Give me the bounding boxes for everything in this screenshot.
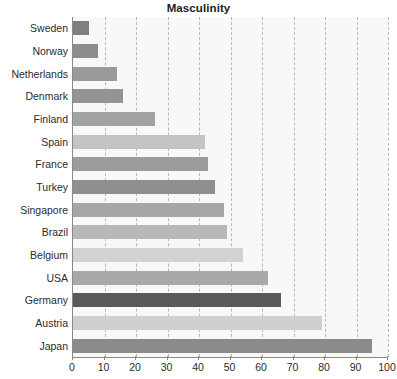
- bar-row: [73, 135, 388, 149]
- bar-netherlands[interactable]: [73, 67, 117, 81]
- bar-row: [73, 293, 388, 307]
- x-axis-tick-mark-90: [356, 356, 357, 360]
- bar-row: [73, 316, 388, 330]
- gridline-100: [388, 17, 389, 357]
- bar-row: [73, 112, 388, 126]
- x-axis-tick-mark-80: [324, 356, 325, 360]
- x-axis-tick-60: 60: [255, 360, 267, 374]
- y-axis-label-japan: Japan: [0, 340, 68, 352]
- bar-row: [73, 203, 388, 217]
- x-axis-tick-mark-70: [293, 356, 294, 360]
- bar-row: [73, 248, 388, 262]
- x-axis-tick-mark-0: [72, 356, 73, 360]
- bar-france[interactable]: [73, 157, 208, 171]
- y-axis-label-netherlands: Netherlands: [0, 68, 68, 80]
- x-axis-tick-mark-40: [198, 356, 199, 360]
- bar-row: [73, 21, 388, 35]
- bar-turkey[interactable]: [73, 180, 215, 194]
- bar-finland[interactable]: [73, 112, 155, 126]
- y-axis-label-austria: Austria: [0, 317, 68, 329]
- bar-row: [73, 339, 388, 353]
- bar-japan[interactable]: [73, 339, 372, 353]
- bar-row: [73, 44, 388, 58]
- bar-norway[interactable]: [73, 44, 98, 58]
- y-axis-label-germany: Germany: [0, 294, 68, 306]
- bar-denmark[interactable]: [73, 89, 123, 103]
- bar-row: [73, 157, 388, 171]
- bar-austria[interactable]: [73, 316, 322, 330]
- bar-spain[interactable]: [73, 135, 205, 149]
- bar-germany[interactable]: [73, 293, 281, 307]
- y-axis-label-denmark: Denmark: [0, 90, 68, 102]
- y-axis-label-brazil: Brazil: [0, 226, 68, 238]
- y-axis-label-usa: USA: [0, 272, 68, 284]
- masculinity-bar-chart: Masculinity SwedenNorwayNetherlandsDenma…: [0, 0, 397, 379]
- x-axis-tick-40: 40: [192, 360, 204, 374]
- x-axis-tick-mark-20: [135, 356, 136, 360]
- y-axis-label-france: France: [0, 158, 68, 170]
- x-axis-tick-70: 70: [287, 360, 299, 374]
- bar-row: [73, 67, 388, 81]
- x-axis-tick-50: 50: [224, 360, 236, 374]
- plot-area: [72, 17, 388, 358]
- x-axis-tick-80: 80: [318, 360, 330, 374]
- bar-row: [73, 271, 388, 285]
- x-axis-tick-mark-10: [104, 356, 105, 360]
- bar-belgium[interactable]: [73, 248, 243, 262]
- y-axis-label-singapore: Singapore: [0, 204, 68, 216]
- bar-usa[interactable]: [73, 271, 268, 285]
- y-axis-label-belgium: Belgium: [0, 249, 68, 261]
- bar-row: [73, 89, 388, 103]
- y-axis-label-spain: Spain: [0, 136, 68, 148]
- x-axis-tick-10: 10: [98, 360, 110, 374]
- y-axis-label-turkey: Turkey: [0, 181, 68, 193]
- bars-layer: [73, 17, 388, 357]
- x-axis-tick-mark-100: [387, 356, 388, 360]
- y-axis-label-finland: Finland: [0, 113, 68, 125]
- y-axis-category-labels: SwedenNorwayNetherlandsDenmarkFinlandSpa…: [0, 17, 68, 357]
- bar-sweden[interactable]: [73, 21, 89, 35]
- x-axis-tick-0: 0: [69, 360, 75, 374]
- x-axis-tick-100: 100: [378, 360, 396, 374]
- x-axis-tick-mark-30: [167, 356, 168, 360]
- x-axis-tick-90: 90: [350, 360, 362, 374]
- y-axis-label-norway: Norway: [0, 45, 68, 57]
- bar-singapore[interactable]: [73, 203, 224, 217]
- bar-row: [73, 225, 388, 239]
- x-axis-tick-labels: 0102030405060708090100: [0, 360, 397, 378]
- bar-row: [73, 180, 388, 194]
- x-axis-tick-20: 20: [129, 360, 141, 374]
- chart-title: Masculinity: [0, 1, 397, 15]
- y-axis-label-sweden: Sweden: [0, 22, 68, 34]
- x-axis-tick-mark-50: [230, 356, 231, 360]
- x-axis-tick-mark-60: [261, 356, 262, 360]
- x-axis-tick-30: 30: [161, 360, 173, 374]
- bar-brazil[interactable]: [73, 225, 227, 239]
